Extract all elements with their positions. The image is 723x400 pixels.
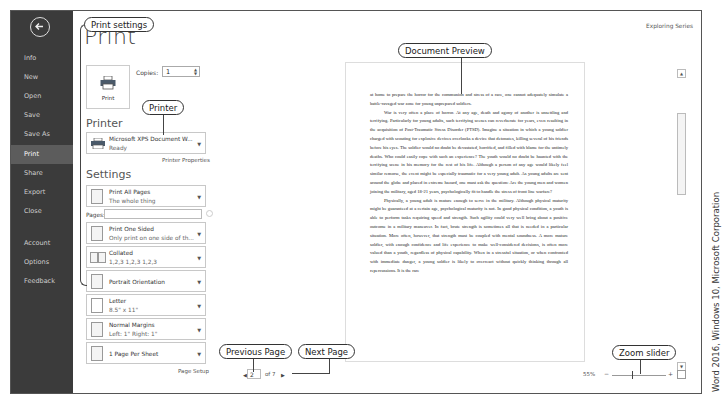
setting-title: Print All Pages (109, 189, 150, 195)
sidebar-item-info[interactable]: Info (11, 49, 73, 68)
zoom-out-button[interactable]: − (604, 370, 609, 377)
callout-line (461, 58, 462, 94)
backstage-sidebar: Info New Open Save Save As Print Share E… (11, 11, 73, 393)
setting-title: Normal Margins (109, 322, 155, 328)
chevron-down-icon: ▼ (197, 351, 201, 357)
current-page-input[interactable]: 2 (247, 369, 261, 379)
setting-subtitle: Only print on one side of th... (109, 235, 194, 241)
sidebar-item-print[interactable]: Print (11, 145, 73, 164)
printer-status: Ready (109, 145, 127, 151)
setting-title: Portrait Orientation (109, 279, 165, 285)
print-button[interactable]: Print (86, 65, 130, 109)
copies-value: 1 (166, 68, 170, 76)
back-button[interactable] (30, 17, 50, 37)
callout-line (329, 359, 330, 373)
callout-line (640, 360, 641, 374)
pages-per-sheet-icon (91, 346, 103, 361)
printer-properties-link[interactable]: Printer Properties (162, 157, 210, 163)
document-text: at home to prepare the horror for the co… (370, 91, 568, 276)
chevron-down-icon: ▼ (197, 303, 201, 309)
print-settings-bracket (80, 24, 87, 286)
page-setup-link[interactable]: Page Setup (178, 368, 209, 374)
zoom-level[interactable]: 55% (583, 371, 595, 377)
sidebar-item-open[interactable]: Open (11, 87, 73, 106)
paper-size-dropdown[interactable]: Letter 8.5" x 11" ▼ (86, 294, 206, 316)
callout-line (163, 115, 164, 135)
printer-dropdown[interactable]: Microsoft XPS Document W... Ready ▼ (86, 132, 206, 154)
callout-line (253, 359, 254, 372)
copies-label: Copies: (136, 69, 158, 76)
printer-name: Microsoft XPS Document W... (109, 136, 193, 142)
pages-label: Pages: (86, 212, 105, 218)
preview-paragraph: at home to prepare the horror for the co… (370, 91, 568, 109)
orientation-dropdown[interactable]: Portrait Orientation ▼ (86, 270, 206, 292)
image-credit: Word 2016, Windows 10, Microsoft Corpora… (711, 192, 721, 392)
copies-stepper[interactable]: 1 ▲▼ (162, 66, 200, 77)
pages-icon (91, 189, 103, 204)
setting-subtitle: Left: 1" Right: 1" (109, 331, 157, 337)
pages-per-sheet-dropdown[interactable]: 1 Page Per Sheet ▼ (86, 342, 206, 364)
callout-next-page: Next Page (298, 344, 355, 359)
sidebar-item-share[interactable]: Share (11, 164, 73, 183)
chevron-down-icon: ▼ (197, 141, 201, 147)
setting-subtitle: 1,2,3 1,2,3 1,2,3 (109, 259, 157, 265)
zoom-slider[interactable] (612, 375, 666, 376)
sidebar-item-feedback[interactable]: Feedback (11, 272, 73, 291)
printer-device-icon (91, 138, 105, 149)
collated-icon (90, 252, 98, 263)
callout-printer: Printer (142, 100, 184, 115)
setting-subtitle: 8.5" x 11" (109, 307, 138, 313)
chevron-down-icon: ▼ (197, 255, 201, 261)
pages-input[interactable] (104, 209, 202, 219)
sidebar-item-new[interactable]: New (11, 68, 73, 87)
next-page-button[interactable]: ▶ (281, 372, 285, 378)
chevron-down-icon: ▼ (197, 194, 201, 200)
one-sided-icon (91, 226, 103, 241)
setting-title: Print One Sided (109, 226, 154, 232)
scroll-thumb[interactable] (677, 113, 686, 195)
zoom-in-button[interactable]: + (668, 370, 673, 377)
chevron-down-icon: ▼ (197, 279, 201, 285)
setting-title: Letter (109, 298, 126, 304)
chevron-down-icon: ▼ (197, 231, 201, 237)
sidebar-item-save[interactable]: Save (11, 106, 73, 125)
callout-document-preview: Document Preview (398, 43, 492, 58)
print-button-label: Print (87, 95, 129, 101)
collated-icon-b (98, 252, 106, 263)
settings-section-title: Settings (86, 168, 131, 181)
portrait-icon (91, 274, 103, 289)
print-range-dropdown[interactable]: Print All Pages The whole thing ▼ (86, 185, 206, 207)
zoom-slider-thumb[interactable] (632, 371, 633, 379)
sides-dropdown[interactable]: Print One Sided Only print on one side o… (86, 222, 206, 244)
sidebar-item-save-as[interactable]: Save As (11, 125, 73, 144)
margins-icon (91, 322, 103, 337)
info-icon[interactable] (206, 210, 213, 217)
printer-icon (100, 76, 116, 90)
callout-print-settings: Print settings (84, 17, 154, 32)
printer-section-title: Printer (86, 117, 123, 130)
callout-line (292, 373, 330, 374)
callout-zoom-slider: Zoom slider (612, 345, 676, 360)
vertical-scrollbar[interactable]: ▲ ▼ (677, 55, 686, 371)
chevron-down-icon: ▼ (197, 327, 201, 333)
zoom-to-page-icon[interactable] (677, 370, 686, 379)
sidebar-item-account[interactable]: Account (11, 234, 73, 253)
preview-paragraph: War is very often a place of horror. At … (370, 109, 568, 197)
margins-dropdown[interactable]: Normal Margins Left: 1" Right: 1" ▼ (86, 318, 206, 340)
spin-arrows-icon[interactable]: ▲▼ (194, 68, 197, 76)
sidebar-item-export[interactable]: Export (11, 183, 73, 202)
scroll-up-icon[interactable]: ▲ (677, 69, 686, 78)
page-count: of 7 (265, 371, 276, 377)
document-preview: at home to prepare the horror for the co… (345, 62, 585, 362)
setting-title: 1 Page Per Sheet (109, 351, 158, 357)
sidebar-item-close[interactable]: Close (11, 202, 73, 221)
sidebar-item-options[interactable]: Options (11, 253, 73, 272)
setting-title: Collated (109, 250, 133, 256)
preview-paragraph: Physically, a young adult is mature enou… (370, 197, 568, 276)
collation-dropdown[interactable]: Collated 1,2,3 1,2,3 1,2,3 ▼ (86, 246, 206, 268)
setting-subtitle: The whole thing (109, 198, 156, 204)
back-arrow-icon (34, 21, 45, 32)
callout-previous-page: Previous Page (219, 344, 292, 359)
series-label: Exploring Series (646, 23, 693, 29)
paper-size-icon (91, 298, 103, 313)
